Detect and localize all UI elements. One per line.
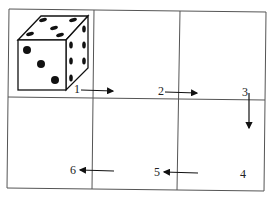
step-label-6: 6 xyxy=(70,163,76,177)
grid-line-vertical-1 xyxy=(92,10,94,189)
step-label-2: 2 xyxy=(158,84,164,98)
step-label-3: 3 xyxy=(242,85,248,99)
arrow-left-icon xyxy=(164,172,198,173)
step-3: 3 xyxy=(242,85,249,128)
step-label-5: 5 xyxy=(154,165,160,179)
step-label-4: 4 xyxy=(240,167,246,181)
arrow-right-icon xyxy=(165,92,197,93)
step-2: 2 xyxy=(158,84,197,98)
step-5: 5 xyxy=(154,165,198,179)
arrow-right-icon xyxy=(81,90,113,91)
grid-line-vertical-2 xyxy=(177,11,180,190)
grid-line-horizontal xyxy=(8,97,265,100)
step-4: 4 xyxy=(240,167,246,181)
dice-rolling-grid-diagram: 1 2 3 4 5 6 xyxy=(0,0,272,198)
arrow-left-icon xyxy=(80,170,114,171)
step-label-1: 1 xyxy=(74,82,80,96)
